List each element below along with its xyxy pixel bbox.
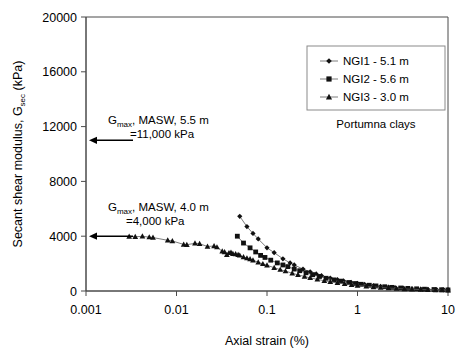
y-tick-label: 12000 (42, 120, 77, 134)
legend-label: NGI3 - 3.0 m (343, 91, 409, 103)
data-point-square (382, 284, 387, 289)
x-axis-title: Axial strain (%) (225, 334, 309, 348)
y-tick-label: 0 (70, 285, 77, 299)
data-point-square (310, 272, 315, 277)
data-point-square (253, 250, 258, 255)
x-tick-label: 0.1 (258, 303, 275, 317)
y-tick-label: 8000 (49, 175, 77, 189)
legend-label: NGI2 - 5.6 m (343, 73, 409, 85)
legend-label: NGI1 - 5.1 m (343, 55, 409, 67)
x-tick-label: 10 (441, 303, 455, 317)
x-tick-label: 1 (354, 303, 361, 317)
legend-marker-square (326, 76, 331, 81)
data-point-square (258, 253, 263, 258)
y-axis-title: Secant shear modulus, Gsec (kPa) (11, 61, 27, 248)
data-point-square (292, 267, 297, 272)
y-axis-title-subscript: sec (18, 94, 27, 106)
data-point-square (241, 241, 246, 246)
data-point-square (268, 258, 273, 263)
y-axis-title-tail: (kPa) (11, 61, 25, 94)
data-point-square (332, 278, 337, 283)
data-point-square (281, 263, 286, 268)
svg-text:Secant shear modulus, Gsec (kP: Secant shear modulus, Gsec (kPa) (11, 61, 27, 248)
x-tick-label: 0.001 (70, 303, 101, 317)
annotation-line-2: =4,000 kPa (126, 215, 185, 227)
data-point-square (398, 286, 403, 291)
data-point-square (275, 261, 280, 266)
x-tick-label: 0.01 (164, 303, 188, 317)
data-point-square (248, 245, 253, 250)
data-point-square (235, 234, 240, 239)
data-point-square (263, 255, 268, 260)
chart-caption: Portumna clays (336, 118, 416, 130)
y-tick-label: 20000 (42, 11, 77, 25)
data-point-square (414, 286, 419, 291)
y-tick-label: 4000 (49, 230, 77, 244)
annotation-line-2: =11,000 kPa (130, 128, 195, 140)
y-tick-label: 16000 (42, 65, 77, 79)
secant-shear-modulus-chart: 040008000120001600020000 0.0010.010.1110… (0, 0, 473, 356)
data-point-square (285, 264, 290, 269)
y-axis-title-main: Secant shear modulus, G (11, 106, 25, 247)
figure-container: 040008000120001600020000 0.0010.010.1110… (0, 0, 473, 356)
